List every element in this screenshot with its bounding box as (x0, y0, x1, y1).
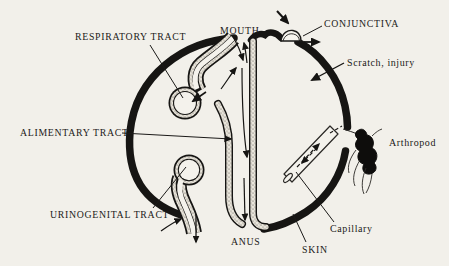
respiratory-tract-label: RESPIRATORY TRACT (75, 31, 186, 42)
skin-label: SKIN (302, 244, 328, 255)
anus-label: ANUS (231, 236, 260, 247)
pathogen-entry-diagram-page: RESPIRATORY TRACT ALIMENTARY TRACT URINO… (0, 0, 449, 266)
alimentary-tract-label: ALIMENTARY TRACT (20, 127, 129, 138)
mouth-label: MOUTH (220, 25, 259, 36)
respiratory-pouch (169, 87, 202, 120)
scratch-injury-label: Scratch, injury (347, 57, 415, 68)
conjunctiva-label: CONJUNCTIVA (324, 18, 399, 29)
body-surfaces-diagram: RESPIRATORY TRACT ALIMENTARY TRACT URINO… (0, 0, 449, 266)
urinogenital-tract-label: URINOGENITAL TRACT (50, 209, 169, 220)
arthropod-label: Arthropod (389, 137, 436, 148)
capillary-label: Capillary (330, 223, 373, 234)
